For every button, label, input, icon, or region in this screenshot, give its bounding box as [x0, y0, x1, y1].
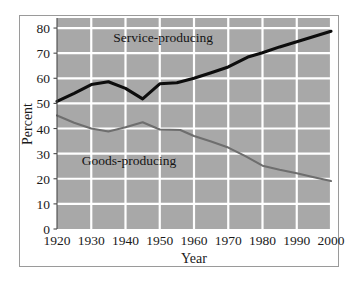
line-chart: 01020304050607080 1920193019401950196019…: [0, 0, 357, 282]
x-tick-label: 1950: [146, 233, 173, 248]
x-axis-tick-labels: 192019301940195019601970198019902000: [44, 233, 345, 248]
y-tick-label: 70: [37, 46, 51, 61]
x-tick-label: 1930: [78, 233, 105, 248]
x-tick-label: 1940: [112, 233, 139, 248]
y-tick-label: 30: [37, 147, 51, 162]
x-tick-label: 2000: [318, 233, 345, 248]
x-tick-label: 1980: [249, 233, 276, 248]
x-axis-title: Year: [181, 251, 207, 266]
y-tick-label: 60: [37, 71, 51, 86]
y-axis-title: Percent: [20, 103, 35, 145]
x-tick-label: 1920: [44, 233, 71, 248]
series-label-0: Service-producing: [113, 30, 213, 45]
y-tick-label: 40: [37, 122, 51, 137]
y-tick-label: 10: [37, 197, 51, 212]
y-tick-label: 50: [37, 96, 51, 111]
x-tick-label: 1960: [181, 233, 208, 248]
y-tick-label: 80: [37, 21, 51, 36]
x-tick-label: 1990: [283, 233, 310, 248]
y-axis-tick-labels: 01020304050607080: [37, 21, 51, 237]
x-tick-label: 1970: [215, 233, 242, 248]
y-tick-label: 20: [37, 172, 51, 187]
series-label-1: Goods-producing: [82, 153, 177, 168]
